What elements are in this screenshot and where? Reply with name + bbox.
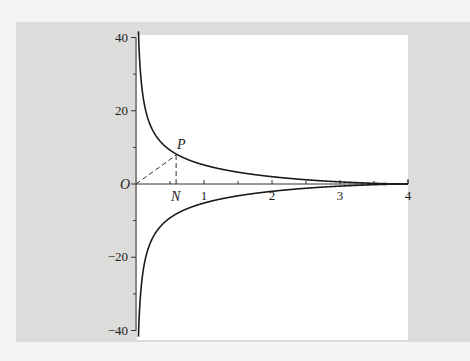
origin-label: O [120, 177, 130, 192]
chart-plot: 1234−40−202040 OPN [0, 0, 470, 361]
y-tick-label: −40 [108, 323, 128, 338]
x-tick-label: 4 [405, 188, 412, 203]
x-tick-label: 2 [269, 188, 276, 203]
x-tick-label: 3 [337, 188, 344, 203]
x-tick-label: 1 [201, 188, 208, 203]
y-tick-label: −20 [108, 249, 128, 264]
point-n-label: N [170, 189, 181, 204]
y-tick-label: 40 [115, 30, 128, 45]
point-p-label: P [176, 137, 186, 152]
y-tick-label: 20 [115, 103, 128, 118]
